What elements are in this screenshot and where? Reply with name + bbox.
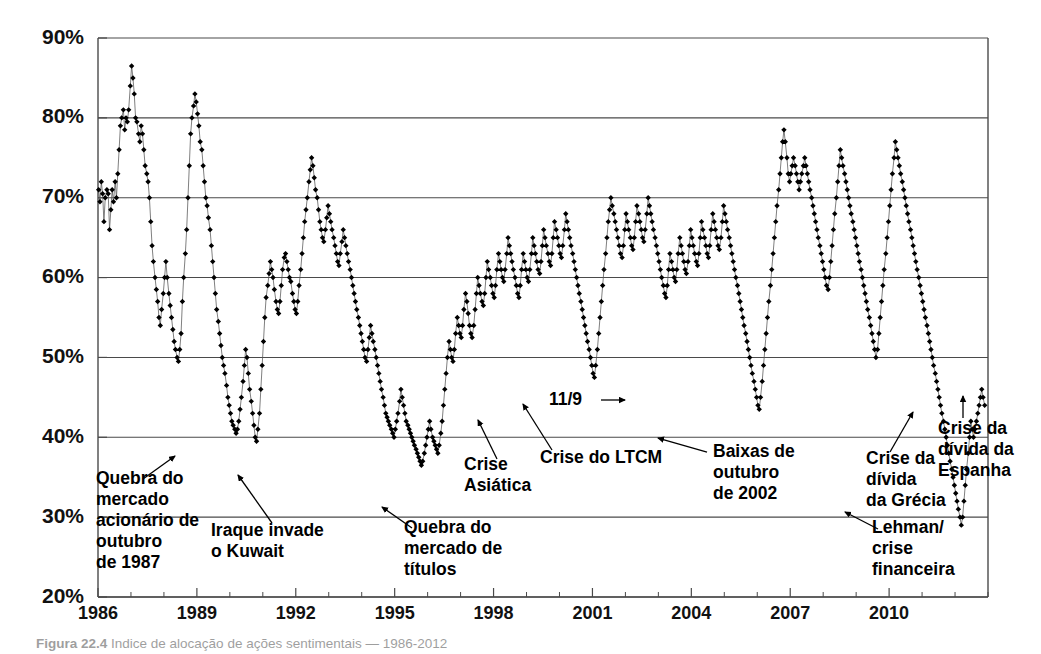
annotation-leader-baixas-2002: [658, 438, 707, 452]
x-tick-label: 1986: [78, 603, 118, 623]
annotation-leader-crise-ltcm: [523, 404, 552, 450]
y-tick-label: 50%: [42, 344, 84, 367]
x-tick-label: 2001: [572, 603, 612, 623]
x-tick-label: 1995: [375, 603, 415, 623]
x-tick-label: 1992: [276, 603, 316, 623]
x-tick-label: 2010: [869, 603, 909, 623]
chart-figure: 90%80%70%60%50%40%30%20% 198619891992199…: [0, 0, 1041, 654]
y-tick-label: 70%: [42, 184, 84, 207]
y-tick-label: 90%: [42, 25, 84, 48]
plot-frame: [98, 38, 988, 597]
annotation-leader-iraque-kuwait: [238, 475, 272, 523]
annotation-quebra-1987: Quebra domercadoacionário deoutubrode 19…: [96, 468, 199, 572]
annotation-crise-espanha: Crise dadívida daEspanha: [938, 418, 1014, 480]
annotation-crise-grecia: Crise dadívidada Grécia: [866, 448, 946, 510]
x-axis-labels: 198619891992199519982001200420072010: [78, 603, 909, 623]
annotation-crise-asiatica: CriseAsiática: [464, 454, 531, 495]
figure-caption: Figura 22.4 Indice de alocação de ações …: [36, 636, 447, 651]
x-tick-label: 1998: [474, 603, 514, 623]
annotation-lehman: Lehman/crisefinanceira: [872, 517, 955, 579]
sentiment-allocation-chart: 90%80%70%60%50%40%30%20% 198619891992199…: [0, 0, 1041, 630]
y-axis-labels: 90%80%70%60%50%40%30%20%: [42, 25, 84, 607]
annotation-onze-nove: 11/9: [549, 389, 582, 409]
annotation-quebra-titulos: Quebra domercado detítulos: [404, 517, 502, 579]
y-tick-label: 80%: [42, 104, 84, 127]
x-tick-label: 2007: [770, 603, 810, 623]
annotation-iraque-kuwait: Iraque invadeo Kuwait: [211, 520, 324, 561]
annotation-baixas-2002: Baixas deoutubrode 2002: [713, 441, 795, 503]
annotation-leader-crise-grecia: [890, 412, 913, 452]
x-tick-label: 2004: [671, 603, 711, 623]
annotation-crise-ltcm: Crise do LTCM: [540, 447, 662, 467]
y-tick-label: 40%: [42, 424, 84, 447]
y-tick-label: 60%: [42, 264, 84, 287]
caption-text: Indice de alocação de ações sentimentais…: [111, 636, 447, 651]
y-tick-label: 30%: [42, 504, 84, 527]
axis-ticks: [98, 38, 988, 597]
x-tick-label: 1989: [177, 603, 217, 623]
chart-annotations: Quebra domercadoacionário deoutubrode 19…: [96, 389, 1014, 579]
gridlines: [98, 38, 988, 597]
caption-label: Figura 22.4: [36, 636, 107, 651]
